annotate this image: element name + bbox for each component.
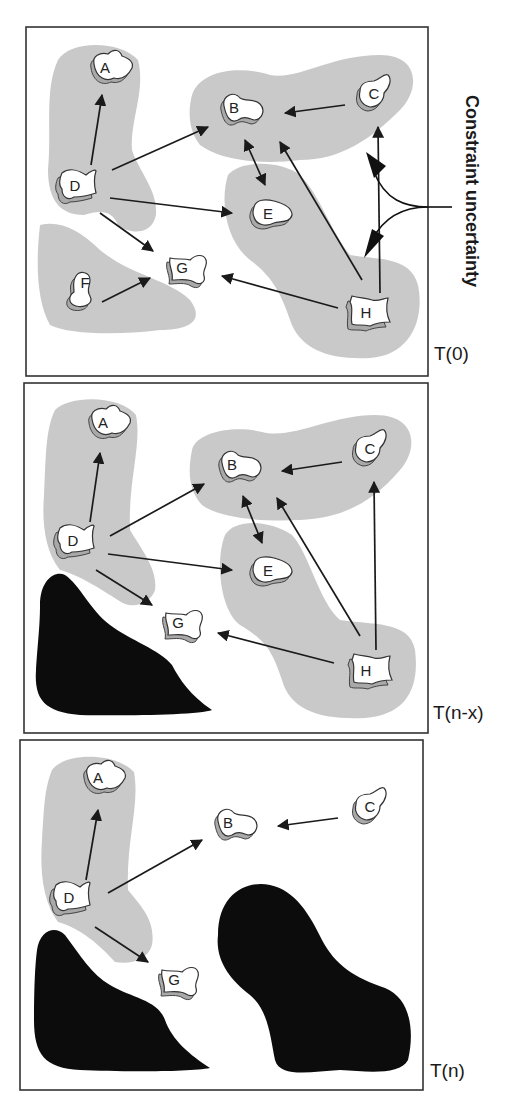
- svg-text:G: G: [168, 971, 180, 988]
- constraint-uncertainty-label: Constraint uncertainty: [461, 95, 482, 287]
- node-h: H: [346, 296, 390, 331]
- svg-text:G: G: [172, 614, 184, 631]
- node-g: G: [163, 611, 203, 643]
- panel-tn: A B C D G: [20, 740, 423, 1090]
- svg-text:G: G: [176, 259, 188, 276]
- node-h: H: [348, 654, 392, 689]
- svg-text:E: E: [263, 205, 273, 222]
- time-label-tn: T(n): [430, 1060, 465, 1082]
- svg-text:E: E: [263, 562, 273, 579]
- node-d: D: [54, 525, 94, 559]
- svg-text:D: D: [64, 889, 75, 906]
- time-label-t0: T(0): [434, 343, 469, 365]
- panel-t0: A B C D E F G H: [26, 27, 452, 376]
- svg-text:D: D: [70, 177, 81, 194]
- svg-text:B: B: [227, 456, 237, 473]
- svg-text:C: C: [365, 798, 376, 815]
- svg-text:F: F: [80, 274, 89, 291]
- node-d: D: [50, 882, 90, 916]
- svg-text:B: B: [229, 99, 239, 116]
- svg-text:B: B: [223, 814, 233, 831]
- node-d: D: [56, 170, 96, 204]
- panel-tn-x: A B C D E G H: [24, 383, 428, 733]
- svg-text:D: D: [68, 532, 79, 549]
- node-g: G: [167, 256, 207, 288]
- node-g: G: [159, 968, 199, 1000]
- figure-canvas: A B C D E F G H A B C D E G H: [0, 0, 512, 1097]
- svg-text:H: H: [361, 662, 372, 679]
- svg-text:A: A: [93, 769, 103, 786]
- time-label-tn-x: T(n-x): [433, 702, 484, 724]
- svg-text:H: H: [361, 304, 372, 321]
- svg-text:A: A: [100, 59, 110, 76]
- svg-text:C: C: [369, 85, 380, 102]
- svg-text:C: C: [365, 440, 376, 457]
- svg-text:A: A: [98, 414, 108, 431]
